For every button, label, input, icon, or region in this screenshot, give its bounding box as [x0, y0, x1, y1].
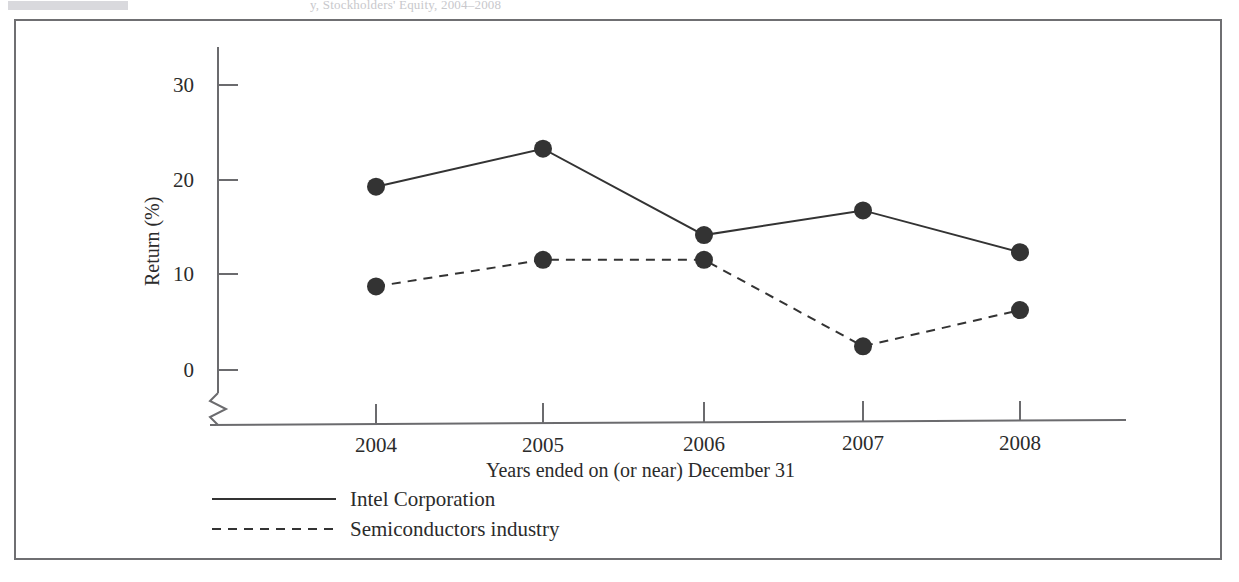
data-point — [534, 140, 552, 158]
data-point — [1011, 243, 1029, 261]
legend-label-semiconductors-industry: Semiconductors industry — [350, 517, 559, 542]
data-point — [854, 201, 872, 219]
series-markers-semiconductors-industry — [367, 251, 1029, 355]
x-axis-line — [210, 420, 1126, 425]
series-markers-intel-corporation — [367, 140, 1029, 262]
x-tick-label-2008: 2008 — [975, 431, 1065, 456]
header-swatch — [8, 1, 128, 10]
data-point — [695, 226, 713, 244]
x-tick-label-2005: 2005 — [498, 433, 588, 458]
data-point — [534, 251, 552, 269]
faded-page-header: y, Stockholders' Equity, 2004–2008 — [0, 0, 1239, 14]
y-tick-label-20: 20 — [146, 168, 194, 193]
series-line-semiconductors-industry — [376, 260, 1020, 347]
legend-label-intel-corporation: Intel Corporation — [350, 487, 495, 512]
header-caption-text: y, Stockholders' Equity, 2004–2008 — [310, 0, 501, 13]
data-point — [367, 178, 385, 196]
y-axis-break-zigzag — [210, 393, 226, 425]
y-tick-label-0: 0 — [146, 358, 194, 383]
data-point — [854, 337, 872, 355]
x-axis-title: Years ended on (or near) December 31 — [486, 459, 795, 482]
x-tick-label-2004: 2004 — [331, 433, 421, 458]
x-tick-label-2007: 2007 — [818, 431, 908, 456]
plot-area: 30 20 10 0 2004 2005 2006 2007 2008 Retu… — [16, 21, 1224, 562]
x-tick-label-2006: 2006 — [659, 432, 749, 457]
data-point — [695, 251, 713, 269]
y-tick-label-30: 30 — [146, 73, 194, 98]
data-point — [1011, 301, 1029, 319]
data-point — [367, 277, 385, 295]
y-axis-title: Return (%) — [141, 197, 164, 286]
figure-frame: 30 20 10 0 2004 2005 2006 2007 2008 Retu… — [14, 19, 1222, 560]
